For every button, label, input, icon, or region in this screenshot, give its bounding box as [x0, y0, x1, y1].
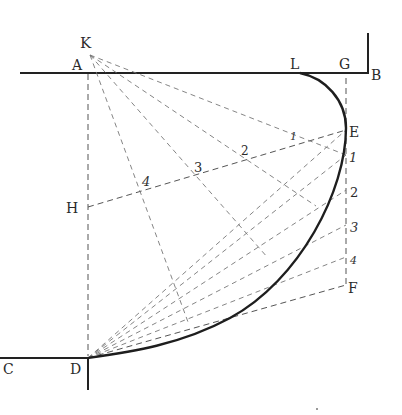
ray-d-2 [88, 190, 346, 358]
label-l: L [290, 56, 299, 72]
ray-k-4 [90, 55, 188, 322]
label-gf-2: 2 [350, 185, 358, 200]
label-d: D [70, 361, 81, 377]
label-k: K [80, 34, 92, 52]
geometric-construction-figure: K A L G B E H F C D 1 2 3 4 1 2 3 4 [0, 0, 402, 415]
label-gf-1: 1 [349, 150, 357, 165]
label-f: F [348, 280, 358, 296]
label-h: H [66, 200, 78, 216]
label-gf-4: 4 [349, 254, 357, 267]
label-e: E [349, 124, 359, 140]
label-a: A [71, 57, 83, 73]
label-c: C [3, 361, 14, 377]
label-b: B [371, 67, 381, 83]
ray-d-1 [88, 155, 346, 358]
label-gf-3: 3 [350, 220, 358, 235]
label-g: G [339, 56, 350, 72]
ray-d-4 [88, 257, 346, 358]
ink-speck [316, 408, 318, 410]
ray-d-f [88, 285, 346, 358]
label-he-2: 2 [241, 144, 249, 158]
line-he-dashed [88, 130, 346, 207]
label-he-3: 3 [194, 160, 202, 175]
label-he-4: 4 [141, 174, 150, 189]
label-he-1: 1 [290, 130, 297, 143]
